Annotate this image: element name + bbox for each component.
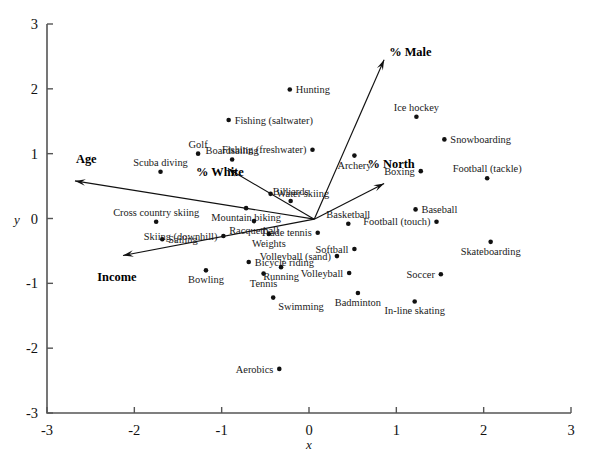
point-marker xyxy=(310,147,315,152)
y-tick-label: -1 xyxy=(26,275,38,291)
data-point: Skateboarding xyxy=(461,240,521,257)
point-label: Running xyxy=(263,271,299,282)
point-marker xyxy=(154,219,159,224)
x-tick-label: 3 xyxy=(567,422,574,438)
data-point: In-line skating xyxy=(385,299,445,316)
point-marker xyxy=(252,219,257,224)
point-marker xyxy=(277,367,282,372)
point-marker xyxy=(352,153,357,158)
point-marker xyxy=(413,207,418,212)
point-marker xyxy=(442,137,447,142)
point-label: Aerobics xyxy=(236,364,274,375)
x-tick-label: -1 xyxy=(216,422,228,438)
data-point: Snowboarding xyxy=(442,134,511,145)
point-marker xyxy=(347,271,352,276)
point-label: Ice hockey xyxy=(394,102,440,113)
biplot-figure: -3-2-101233210-1-2-3xy AgeIncome% White%… xyxy=(0,0,592,471)
point-label: Volleyball xyxy=(301,268,344,279)
data-point: Football (touch) xyxy=(363,216,439,228)
point-label: Soccer xyxy=(407,269,436,280)
point-marker xyxy=(287,87,292,92)
arrow-head-icon xyxy=(373,183,384,191)
point-label: Bowling xyxy=(188,274,224,285)
y-tick-label: -3 xyxy=(26,405,38,421)
point-marker xyxy=(158,170,163,175)
point-marker xyxy=(335,254,340,259)
x-tick-label: -2 xyxy=(128,422,140,438)
data-point: Scuba diving xyxy=(133,157,188,174)
point-label: Scuba diving xyxy=(133,157,188,168)
data-point: Archery xyxy=(337,153,372,170)
data-point: Hunting xyxy=(287,84,329,95)
point-label: Boardsailing xyxy=(206,145,259,156)
point-marker xyxy=(352,247,357,252)
point-label: Boxing xyxy=(384,166,415,177)
vector-label: Income xyxy=(97,270,137,284)
point-label: Billiards xyxy=(273,186,309,197)
vector-label: % White xyxy=(196,165,244,179)
data-point: Swimming xyxy=(271,295,324,311)
point-label: Baseball xyxy=(422,204,458,215)
vector-label: Age xyxy=(76,152,97,166)
data-point: Badminton xyxy=(335,291,382,308)
vector-label: % Male xyxy=(389,45,432,59)
point-marker xyxy=(221,234,226,239)
biplot-vector-male: % Male xyxy=(314,45,432,219)
y-tick-label: 3 xyxy=(31,16,38,32)
point-marker xyxy=(160,237,165,242)
point-marker xyxy=(414,114,419,119)
point-marker xyxy=(246,260,251,265)
point-marker xyxy=(488,240,493,245)
point-marker xyxy=(204,268,209,273)
x-tick-label: 0 xyxy=(305,422,312,438)
point-label: Football (touch) xyxy=(363,216,430,228)
point-marker xyxy=(279,265,284,270)
point-label: Swimming xyxy=(278,301,324,312)
point-marker xyxy=(315,230,320,235)
data-point: Mountain biking xyxy=(211,206,281,223)
point-marker xyxy=(439,272,444,277)
data-point: Cross country skiing xyxy=(113,207,199,224)
data-point: Soccer xyxy=(407,269,444,280)
point-marker xyxy=(230,157,235,162)
data-point: Boxing xyxy=(384,166,423,177)
y-tick-label: 2 xyxy=(31,81,38,97)
point-label: Weights xyxy=(252,238,286,249)
point-marker xyxy=(485,176,490,181)
x-tick-label: 1 xyxy=(393,422,400,438)
data-point: Billiards xyxy=(273,186,309,203)
point-label: Hunting xyxy=(296,84,330,95)
point-marker xyxy=(356,291,361,296)
x-tick-label: -3 xyxy=(41,422,53,438)
data-point: Bowling xyxy=(188,268,224,285)
point-label: Sailing xyxy=(168,234,197,245)
data-point: Boardsailing xyxy=(206,145,259,162)
point-label: Mountain biking xyxy=(211,212,281,223)
point-label: Snowboarding xyxy=(450,134,511,145)
point-marker xyxy=(267,232,272,237)
y-tick-label: -2 xyxy=(26,340,38,356)
data-point: Volleyball (sand) xyxy=(260,251,339,263)
point-marker xyxy=(288,199,293,204)
point-marker xyxy=(434,219,439,224)
point-marker xyxy=(418,169,423,174)
data-point: Fishing (saltwater) xyxy=(226,115,313,127)
point-label: Cross country skiing xyxy=(113,207,199,218)
point-label: Football (tackle) xyxy=(453,163,522,175)
point-marker xyxy=(226,118,231,123)
data-point: Volleyball xyxy=(301,268,352,279)
x-axis-label: x xyxy=(305,437,312,452)
point-label: Fishing (saltwater) xyxy=(235,115,313,127)
y-axis-label: y xyxy=(12,212,20,227)
point-label: Skateboarding xyxy=(461,246,521,257)
point-marker xyxy=(244,206,249,211)
point-label: Archery xyxy=(337,160,372,171)
x-tick-label: 2 xyxy=(480,422,487,438)
point-label: Badminton xyxy=(335,297,382,308)
point-label: In-line skating xyxy=(385,305,445,316)
point-marker xyxy=(412,299,417,304)
points-layer: HuntingFishing (saltwater)Ice hockeySnow… xyxy=(113,84,521,374)
point-marker xyxy=(196,151,201,156)
scatter-plot-svg: -3-2-101233210-1-2-3xy AgeIncome% White%… xyxy=(0,0,592,471)
point-marker xyxy=(271,295,276,300)
